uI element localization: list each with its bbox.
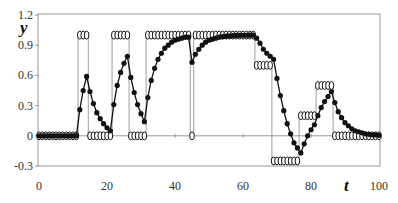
- output-point: [278, 93, 283, 98]
- y-tick-label: 0.3: [18, 99, 33, 113]
- output-point: [186, 35, 191, 40]
- output-point: [274, 76, 279, 81]
- output-point: [261, 47, 266, 52]
- output-point: [118, 70, 123, 75]
- output-point: [308, 127, 313, 132]
- x-tick-label: 40: [169, 179, 181, 193]
- x-axis: 020406080100: [36, 134, 388, 193]
- output-point: [135, 102, 140, 107]
- output-point: [271, 57, 276, 62]
- output-point: [257, 41, 262, 46]
- output-point: [281, 108, 286, 113]
- x-tick-label: 0: [36, 179, 42, 193]
- output-point: [84, 74, 89, 79]
- output-point: [305, 133, 310, 138]
- output-point: [138, 111, 143, 116]
- output-point: [332, 100, 337, 105]
- output-point: [101, 121, 106, 126]
- output-point: [339, 115, 344, 120]
- output-point: [81, 88, 86, 93]
- output-point: [94, 110, 99, 115]
- output-point: [336, 109, 341, 114]
- input-point: [84, 31, 89, 39]
- output-point: [288, 131, 293, 136]
- input-point: [142, 132, 147, 140]
- output-point: [376, 133, 381, 138]
- output-point: [285, 121, 290, 126]
- output-point: [196, 47, 201, 52]
- output-point: [193, 52, 198, 57]
- output-point: [132, 90, 137, 95]
- output-point: [302, 141, 307, 146]
- output-point: [319, 105, 324, 110]
- output-point: [77, 107, 82, 112]
- input-point: [268, 61, 273, 69]
- y-axis-title: y: [18, 18, 28, 37]
- output-point: [111, 102, 116, 107]
- output-point: [115, 83, 120, 88]
- output-point: [291, 140, 296, 145]
- output-point: [142, 119, 147, 124]
- x-tick-label: 100: [370, 179, 388, 193]
- output-point: [128, 75, 133, 80]
- input-point: [329, 81, 334, 89]
- output-point: [74, 133, 79, 138]
- output-point: [329, 89, 334, 94]
- output-point: [298, 150, 303, 155]
- output-point: [189, 60, 194, 65]
- output-point: [145, 95, 150, 100]
- output-point: [155, 57, 160, 62]
- chart: -0.300.30.60.91.2 020406080100 y t: [0, 0, 398, 203]
- x-tick-label: 80: [305, 179, 317, 193]
- output-point: [108, 128, 113, 133]
- y-tick-label: -0.3: [14, 159, 33, 173]
- input-point: [190, 132, 195, 140]
- output-point: [325, 94, 330, 99]
- x-axis-title: t: [344, 176, 350, 195]
- y-tick-label: 0: [27, 129, 33, 143]
- output-point: [87, 89, 92, 94]
- input-point: [125, 31, 130, 39]
- output-point: [254, 36, 259, 41]
- input-point: [295, 157, 300, 165]
- output-point: [312, 122, 317, 127]
- output-point: [322, 99, 327, 104]
- y-tick-label: 0.9: [18, 38, 33, 52]
- output-point: [98, 116, 103, 121]
- output-point: [91, 101, 96, 106]
- output-point: [152, 66, 157, 71]
- output-point: [149, 78, 154, 83]
- output-point: [121, 61, 126, 66]
- output-point: [295, 145, 300, 150]
- x-tick-label: 60: [237, 179, 249, 193]
- output-point: [315, 113, 320, 118]
- output-point: [159, 51, 164, 56]
- x-tick-label: 20: [101, 179, 113, 193]
- output-point: [125, 54, 130, 59]
- y-tick-label: 0.6: [18, 68, 33, 82]
